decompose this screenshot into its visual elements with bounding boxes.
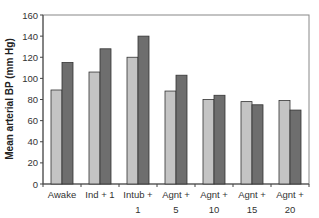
x-tick-label: 10 bbox=[209, 204, 220, 215]
bar-chart: 020406080100120140160 AwakeInd + 1Intub … bbox=[0, 0, 319, 218]
y-tick-label: 60 bbox=[27, 115, 38, 126]
bar bbox=[203, 100, 214, 185]
y-tick-label: 120 bbox=[22, 52, 38, 63]
x-tick-label: 5 bbox=[173, 204, 178, 215]
bar bbox=[176, 75, 187, 184]
bar bbox=[62, 63, 73, 184]
bar bbox=[100, 49, 111, 184]
bar bbox=[279, 101, 290, 184]
bar bbox=[89, 72, 100, 184]
y-tick-label: 0 bbox=[33, 179, 38, 190]
y-axis-label: Mean arterial BP (mm Hg) bbox=[4, 38, 15, 160]
bar bbox=[290, 110, 301, 184]
x-tick-label: Agnt + bbox=[200, 189, 228, 200]
bar bbox=[138, 36, 149, 184]
x-tick-label: Agnt + bbox=[162, 189, 190, 200]
x-axis: AwakeInd + 1Intub +1Agnt +5Agnt +10Agnt … bbox=[43, 184, 309, 215]
y-axis: 020406080100120140160 bbox=[22, 10, 43, 190]
bar bbox=[51, 90, 62, 184]
y-tick-label: 20 bbox=[27, 157, 38, 168]
bar bbox=[127, 57, 138, 184]
x-tick-label: 1 bbox=[135, 204, 140, 215]
bar bbox=[241, 102, 252, 184]
x-tick-label: Agnt + bbox=[238, 189, 266, 200]
x-tick-label: Agnt + bbox=[276, 189, 304, 200]
x-tick-label: Awake bbox=[48, 189, 76, 200]
bar bbox=[252, 105, 263, 184]
bar bbox=[214, 95, 225, 184]
x-tick-label: Ind + 1 bbox=[85, 189, 114, 200]
x-tick-label: Intub + bbox=[123, 189, 153, 200]
y-tick-label: 160 bbox=[22, 10, 38, 21]
y-tick-label: 40 bbox=[27, 136, 38, 147]
y-tick-label: 80 bbox=[27, 94, 38, 105]
y-tick-label: 100 bbox=[22, 73, 38, 84]
bars bbox=[51, 36, 301, 184]
y-tick-label: 140 bbox=[22, 31, 38, 42]
x-tick-label: 15 bbox=[247, 204, 258, 215]
x-tick-label: 20 bbox=[285, 204, 296, 215]
bar bbox=[165, 91, 176, 184]
